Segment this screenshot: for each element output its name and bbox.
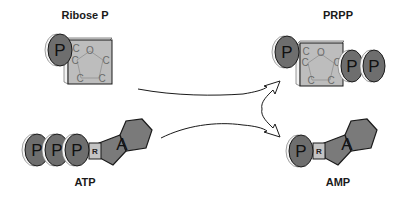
ring-atom-c: C (307, 75, 314, 86)
phosphate-icon: P (45, 34, 72, 66)
atp-label: ATP (74, 176, 95, 188)
svg-text:R: R (92, 147, 98, 156)
reaction-arrow-curve (161, 124, 243, 138)
ribose-p-molecule: Ribose P C O C C C C P (45, 9, 112, 84)
ring-atom-c: C (98, 73, 105, 84)
svg-text:P: P (368, 57, 379, 76)
svg-text:P: P (51, 141, 62, 160)
phosphate-icon: P (360, 50, 385, 82)
ribose-box-icon: R (89, 143, 101, 159)
reaction-arrows (138, 81, 280, 138)
svg-text:P: P (71, 141, 82, 160)
ring-atom-c: C (301, 57, 308, 68)
ring-atom-o: O (86, 45, 94, 56)
atp-molecule: A R P P P ATP (22, 119, 152, 188)
phosphate-icon: P (338, 50, 363, 82)
svg-text:A: A (116, 135, 128, 154)
prpp-molecule: PRPP C O C C C C P P (272, 9, 385, 86)
ring-atom-c: C (71, 55, 78, 66)
ring-atom-c: C (72, 43, 79, 54)
ring-atom-c: C (102, 55, 109, 66)
ring-atom-o: O (317, 47, 325, 58)
prpp-sugar-cube: C O C C C C (296, 41, 344, 86)
svg-text:R: R (316, 147, 322, 156)
amp-molecule: A R P AMP (286, 119, 377, 188)
svg-text:P: P (295, 142, 306, 161)
svg-text:P: P (31, 141, 42, 160)
ring-atom-c: C (302, 46, 309, 57)
ribose-p-label: Ribose P (61, 9, 108, 21)
reaction-diagram: Ribose P C O C C C C P (0, 0, 404, 199)
svg-text:P: P (346, 57, 357, 76)
ribose-box-icon: R (313, 143, 325, 159)
phosphate-icon: P (272, 36, 299, 68)
ring-atom-c: C (76, 73, 83, 84)
svg-text:A: A (341, 135, 353, 154)
ring-atom-c: C (327, 75, 334, 86)
adenine-base-icon: A (99, 119, 152, 165)
reaction-arrow-curve (138, 89, 243, 95)
svg-text:P: P (281, 43, 292, 62)
svg-text:P: P (54, 41, 65, 60)
phosphate-icon: P (286, 135, 313, 167)
split-arrowhead-icon (243, 81, 280, 137)
amp-label: AMP (326, 176, 350, 188)
prpp-label: PRPP (323, 9, 353, 21)
diagram-svg: Ribose P C O C C C C P (0, 0, 404, 199)
adenine-base-icon: A (324, 119, 377, 165)
phosphate-icon: P (62, 134, 89, 166)
